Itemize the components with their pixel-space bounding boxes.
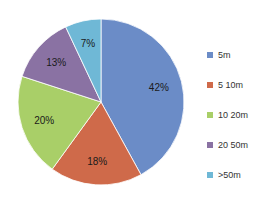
pie-chart: 42%18%20%13%7% [0,0,200,200]
legend-item-10-20m: 10 20m [207,100,248,130]
chart-legend: 5m 5 10m 10 20m 20 50m >50m [207,40,248,190]
legend-swatch [207,142,213,148]
slice-label: 20% [34,115,54,126]
legend-item-20-50m: 20 50m [207,130,248,160]
slice-label: 13% [46,57,66,68]
legend-item-5-10m: 5 10m [207,70,248,100]
legend-swatch [207,172,213,178]
legend-item-gt50m: >50m [207,160,248,190]
legend-label: 5m [218,50,231,60]
slice-label: 18% [87,156,107,167]
legend-swatch [207,52,213,58]
slice-label: 42% [149,82,169,93]
legend-swatch [207,82,213,88]
slice-label: 7% [81,38,96,49]
legend-swatch [207,112,213,118]
legend-item-lt5m: 5m [207,40,248,70]
legend-label: >50m [218,170,241,180]
legend-label: 5 10m [218,80,243,90]
legend-label: 20 50m [218,140,248,150]
legend-label: 10 20m [218,110,248,120]
